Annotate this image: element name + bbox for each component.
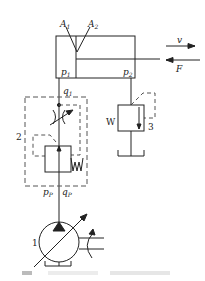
rotation-arrow-icon	[89, 229, 95, 235]
label-component-2: 2	[16, 132, 22, 142]
label-p2: p2	[123, 67, 133, 78]
a1-leader	[66, 27, 77, 52]
label-q1: q1	[63, 86, 73, 97]
diagram-canvas: A1 A2 p1 p2 v F q1 pP qP 2 3 1 W	[0, 0, 205, 281]
relief-spring-symbol: W	[106, 117, 116, 127]
figure-caption-faded	[20, 271, 190, 277]
label-velocity: v	[177, 35, 182, 45]
force-arrow-icon	[166, 58, 200, 63]
label-p1: p1	[61, 67, 71, 78]
label-force: F	[175, 64, 183, 74]
label-a1: A1	[59, 19, 70, 30]
label-component-1: 1	[32, 238, 38, 248]
compensator-spring-icon	[71, 158, 83, 171]
pump-output-triangle-icon	[53, 222, 65, 231]
label-a2: A2	[87, 19, 99, 30]
rotation-arc	[87, 233, 93, 258]
label-component-3: 3	[148, 122, 154, 132]
variable-throttle-icon	[50, 110, 73, 125]
hydraulic-circuit-diagram: A1 A2 p1 p2 v F q1 pP qP 2 3 1 W	[0, 0, 205, 281]
label-pp: pP	[43, 187, 54, 198]
label-qp: qP	[62, 187, 73, 198]
a2-leader	[77, 27, 90, 52]
